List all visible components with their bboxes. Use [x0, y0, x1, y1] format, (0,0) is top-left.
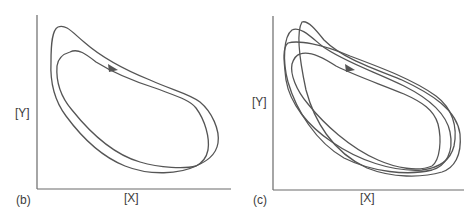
- trajectory-inner: [57, 51, 209, 168]
- direction-arrow-icon: [108, 64, 118, 72]
- trajectory-loop-1: [299, 22, 460, 176]
- trajectory-outer: [51, 26, 218, 172]
- panel-label: (c): [253, 194, 267, 206]
- panel-b: [Y] [X] (b): [0, 0, 232, 220]
- phase-plot-c: [232, 0, 464, 220]
- direction-arrow-icon: [345, 64, 355, 72]
- panel-c: [Y] [X] (c): [232, 0, 464, 220]
- y-axis-label: [Y]: [15, 107, 30, 119]
- panel-label: (b): [16, 194, 31, 206]
- trajectory-loop-4: [292, 53, 440, 169]
- x-axis-label: [X]: [360, 192, 375, 204]
- y-axis-label: [Y]: [252, 96, 267, 108]
- x-axis-label: [X]: [124, 192, 139, 204]
- phase-plot-b: [0, 0, 232, 220]
